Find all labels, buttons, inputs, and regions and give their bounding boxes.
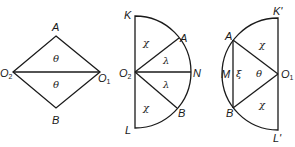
- label-m: M: [221, 68, 231, 80]
- label-b: B: [226, 107, 233, 119]
- label-n: N: [193, 67, 201, 79]
- label-l-prime: L': [273, 132, 282, 144]
- angle-lambda-lower: λ: [162, 79, 169, 90]
- radius-o2-a: [135, 38, 179, 72]
- label-a: A: [51, 21, 59, 33]
- angle-chi-upper: χ: [258, 39, 266, 50]
- label-o2: O2: [0, 67, 13, 80]
- figure-3-semicircle: K' L' O1 M A B χ θ ξ χ: [221, 5, 294, 144]
- label-a: A: [179, 32, 187, 44]
- label-k: K: [124, 9, 132, 21]
- label-o2: O2: [119, 67, 132, 80]
- radius-o2-b: [135, 72, 177, 108]
- angle-theta-lower: θ: [53, 79, 59, 90]
- angle-lambda-upper: λ: [162, 55, 169, 66]
- geometry-diagram: A B O2 O1 θ θ K L O2 N A B χ λ λ χ K' L'…: [0, 0, 295, 147]
- figure-2-semicircle: K L O2 N A B χ λ λ χ: [119, 9, 201, 136]
- angle-chi-upper: χ: [142, 37, 150, 48]
- label-l: L: [125, 124, 131, 136]
- label-b: B: [52, 114, 59, 126]
- angle-chi-lower: χ: [142, 102, 150, 113]
- label-o1: O1: [98, 72, 111, 85]
- label-b: B: [178, 107, 185, 119]
- label-o1: O1: [281, 68, 294, 81]
- figure-1-rhombus: A B O2 O1 θ θ: [0, 21, 111, 126]
- angle-chi-lower: χ: [258, 99, 266, 110]
- angle-theta: θ: [256, 68, 262, 79]
- label-k-prime: K': [273, 5, 283, 17]
- angle-xi: ξ: [236, 68, 242, 79]
- label-a: A: [224, 30, 232, 42]
- angle-theta-upper: θ: [53, 53, 59, 64]
- radius-b-o1: [233, 74, 278, 108]
